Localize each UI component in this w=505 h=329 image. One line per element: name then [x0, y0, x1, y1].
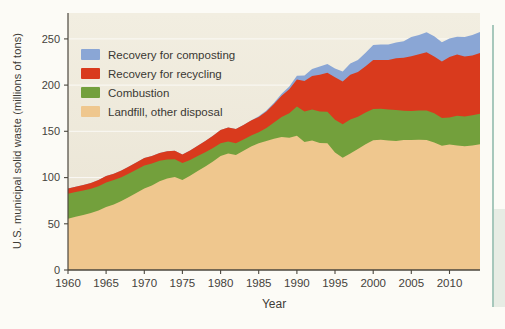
x-tick-label-1970: 1970	[132, 277, 158, 289]
legend-label: Recovery for recycling	[108, 68, 222, 80]
y-tick-label-150: 150	[42, 125, 60, 137]
legend-label: Combustion	[108, 87, 169, 99]
x-tick-label-2005: 2005	[399, 277, 425, 289]
landfill-swatch-icon	[81, 106, 100, 117]
x-tick-label-1990: 1990	[284, 277, 310, 289]
side-panel-fill	[494, 209, 505, 307]
legend-item-combustion: Combustion	[81, 83, 235, 102]
legend-item-landfill: Landfill, other disposal	[81, 102, 235, 121]
y-tick-label-0: 0	[54, 264, 60, 276]
x-tick-label-1980: 1980	[208, 277, 234, 289]
x-axis-title: Year	[262, 297, 286, 311]
x-tick-label-2000: 2000	[360, 277, 386, 289]
legend: Recovery for composting Recovery for rec…	[81, 45, 235, 121]
recycling-swatch-icon	[81, 68, 100, 79]
x-tick-label-1975: 1975	[170, 277, 196, 289]
legend-item-recycling: Recovery for recycling	[81, 64, 235, 83]
x-tick-label-1960: 1960	[55, 277, 81, 289]
x-tick-label-1995: 1995	[322, 277, 348, 289]
x-tick-label-2010: 2010	[437, 277, 463, 289]
msw-stacked-area-figure: 0501001502002501960196519701975198019851…	[0, 0, 505, 329]
x-tick-label-1985: 1985	[246, 277, 272, 289]
chart-canvas: 0501001502002501960196519701975198019851…	[0, 0, 505, 329]
y-tick-label-100: 100	[42, 171, 60, 183]
y-axis-title: U.S. municipal solid waste (millions of …	[11, 33, 23, 249]
y-tick-label-250: 250	[42, 33, 60, 45]
legend-item-composting: Recovery for composting	[81, 45, 235, 64]
composting-swatch-icon	[81, 49, 100, 60]
combustion-swatch-icon	[81, 87, 100, 98]
y-tick-label-50: 50	[48, 218, 60, 230]
x-tick-label-1965: 1965	[93, 277, 119, 289]
legend-label: Recovery for composting	[108, 49, 235, 61]
y-tick-label-200: 200	[42, 79, 60, 91]
legend-label: Landfill, other disposal	[108, 106, 222, 118]
